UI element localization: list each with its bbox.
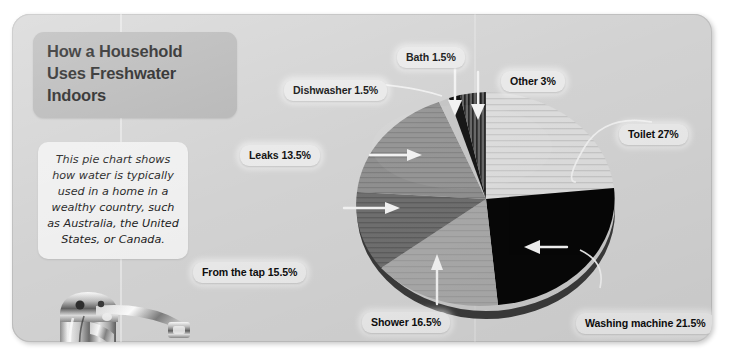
page-title: How a Household Uses Freshwater Indoors bbox=[33, 32, 237, 118]
title-line-2: Uses Freshwater bbox=[47, 63, 225, 85]
pie-chart bbox=[352, 92, 632, 327]
faucet-photo bbox=[40, 282, 205, 342]
infographic-panel: How a Household Uses Freshwater Indoors … bbox=[12, 14, 712, 342]
slice-label-other: Other 3% bbox=[501, 71, 565, 92]
page-canvas: How a Household Uses Freshwater Indoors … bbox=[0, 0, 735, 357]
slice-label-from-the-tap: From the tap 15.5% bbox=[193, 262, 306, 283]
title-line-3: Indoors bbox=[47, 85, 225, 107]
slice-label-leaks: Leaks 13.5% bbox=[240, 145, 320, 166]
slice-label-shower: Shower 16.5% bbox=[362, 312, 450, 333]
slice-label-dishwasher: Dishwasher 1.5% bbox=[284, 80, 387, 101]
caption-text: This pie chart shows how water is typica… bbox=[47, 152, 179, 247]
slice-label-toilet: Toilet 27% bbox=[619, 124, 688, 145]
slice-label-bath: Bath 1.5% bbox=[397, 47, 465, 68]
caption-box: This pie chart shows how water is typica… bbox=[38, 142, 188, 259]
slice-label-washing-machine: Washing machine 21.5% bbox=[576, 313, 712, 334]
page-top-white-strip bbox=[36, 0, 188, 12]
title-line-1: How a Household bbox=[47, 41, 225, 63]
